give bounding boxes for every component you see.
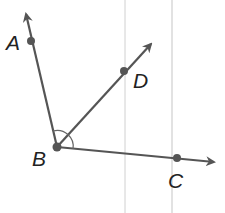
point-b <box>53 143 62 152</box>
label-c: C <box>168 169 184 192</box>
ray-bc <box>57 147 214 162</box>
ray-bd <box>57 44 151 147</box>
point-c <box>173 154 181 162</box>
point-d <box>120 67 128 75</box>
geometry-diagram: A B C D <box>0 0 225 213</box>
label-b: B <box>32 147 46 170</box>
point-a <box>27 37 35 45</box>
label-d: D <box>133 69 148 92</box>
label-a: A <box>4 31 20 54</box>
ray-ba <box>26 14 57 147</box>
